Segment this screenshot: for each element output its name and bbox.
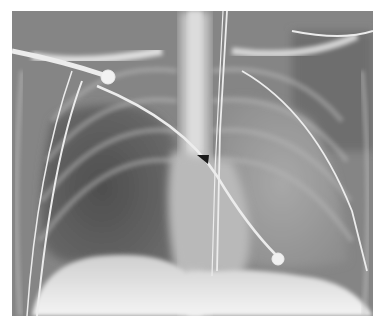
xray-drawing [12,11,373,316]
chest-xray-image [12,11,373,316]
